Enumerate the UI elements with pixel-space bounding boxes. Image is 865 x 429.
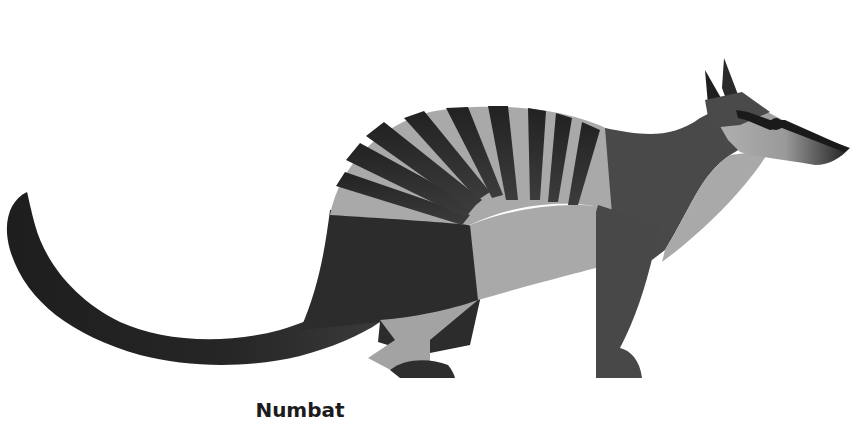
front-leg (596, 205, 660, 378)
eye (770, 118, 782, 130)
numbat-illustration (0, 0, 865, 429)
caption-label: Numbat (0, 398, 600, 422)
